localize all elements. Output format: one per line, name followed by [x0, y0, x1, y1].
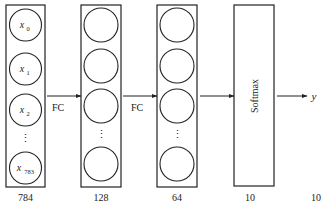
hidden1-node: [84, 49, 118, 83]
network-diagram: x 0 x 1 x 2 ⋮ x 783 784 FC ⋮ 128: [0, 0, 326, 213]
output-size-label: 10: [311, 192, 321, 203]
node-label: x: [19, 104, 25, 115]
node-subscript: 2: [26, 110, 29, 117]
ellipsis-icon: ⋮: [96, 128, 107, 140]
connection-label: FC: [52, 102, 65, 113]
layer-size-label: 10: [245, 192, 255, 203]
node-label: x: [16, 162, 22, 173]
hidden2-node: [160, 8, 194, 42]
hidden2-node: [160, 147, 194, 181]
input-node-x2: x 2: [10, 94, 42, 126]
hidden2-node: [160, 89, 194, 123]
input-node-x0: x 0: [10, 9, 42, 41]
layer-size-label: 784: [18, 192, 33, 203]
input-node-x783: x 783: [10, 152, 42, 184]
hidden1-node: [84, 89, 118, 123]
node-subscript: 0: [26, 25, 29, 32]
output: y 10: [277, 90, 321, 203]
layer-size-label: 128: [94, 192, 109, 203]
hidden-layer-2: ⋮ 64: [157, 5, 197, 203]
ellipsis-icon: ⋮: [20, 132, 31, 144]
hidden1-node: [84, 147, 118, 181]
node-label: x: [19, 19, 25, 30]
connection-input-hidden1: FC: [47, 96, 81, 113]
softmax-layer: Softmax 10: [234, 5, 274, 203]
output-label: y: [311, 90, 317, 102]
connection-label: FC: [131, 102, 144, 113]
hidden2-node: [160, 49, 194, 83]
input-layer: x 0 x 1 x 2 ⋮ x 783 784: [6, 5, 45, 203]
node-subscript: 783: [24, 168, 34, 175]
layer-size-label: 64: [172, 192, 182, 203]
ellipsis-icon: ⋮: [172, 128, 183, 140]
node-label: x: [19, 63, 25, 74]
connection-hidden1-hidden2: FC: [123, 96, 157, 113]
softmax-label: Softmax: [249, 79, 260, 113]
hidden-layer-1: ⋮ 128: [81, 5, 121, 203]
hidden1-node: [84, 8, 118, 42]
node-subscript: 1: [26, 69, 29, 76]
input-node-x1: x 1: [10, 53, 42, 85]
